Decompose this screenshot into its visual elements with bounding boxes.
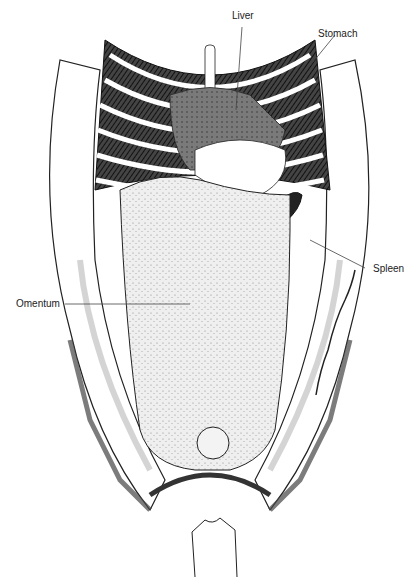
anatomy-illustration (0, 0, 420, 577)
omentum-shape (120, 177, 290, 470)
label-omentum: Omentum (16, 298, 60, 309)
bladder-shape (197, 427, 229, 459)
label-stomach: Stomach (318, 28, 357, 39)
lower-outline (192, 518, 237, 577)
label-spleen: Spleen (373, 263, 404, 274)
label-liver: Liver (232, 10, 254, 21)
